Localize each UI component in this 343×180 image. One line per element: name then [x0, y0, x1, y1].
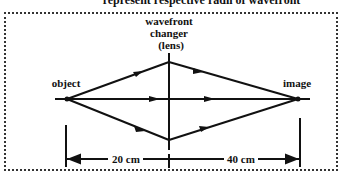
upper-ray-refracted: [169, 62, 298, 99]
upper-ray-incident: [67, 62, 169, 99]
image-point: [296, 97, 301, 102]
lower-ray-refracted: [169, 99, 298, 140]
lens-label-line2: changer: [150, 27, 188, 39]
rays: [55, 53, 310, 168]
lens-label-line1: wavefront: [145, 15, 193, 27]
object-point: [65, 97, 70, 102]
arrow-icon: [133, 71, 143, 77]
ray-diagram: wavefront changer (lens) object image: [0, 0, 343, 180]
lower-ray-incident: [67, 99, 169, 140]
arrow-icon: [149, 96, 160, 102]
left-distance-label: 20 cm: [112, 153, 140, 165]
arrow-icon: [199, 126, 209, 132]
image-label: image: [283, 77, 311, 89]
object-label: object: [52, 77, 81, 89]
lens-label-line3: (lens): [158, 39, 184, 52]
right-distance-label: 40 cm: [227, 153, 255, 165]
arrow-icon: [204, 96, 215, 102]
